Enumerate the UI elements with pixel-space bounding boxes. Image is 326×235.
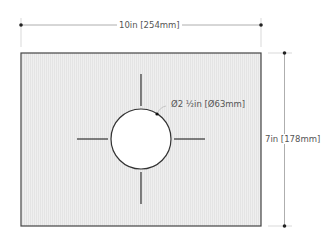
width-label: 10in [254mm]	[117, 20, 182, 30]
hole	[111, 109, 171, 169]
hole-diameter-label: Ø2 ½in [Ø63mm]	[171, 99, 245, 109]
technical-drawing	[0, 0, 326, 235]
drawing: 10in [254mm] 7in [178mm] Ø2 ½in [Ø63mm]	[0, 0, 326, 235]
height-label: 7in [178mm]	[264, 134, 321, 144]
